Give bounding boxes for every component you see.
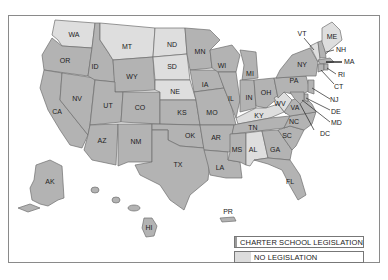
state-pr[interactable] xyxy=(220,217,236,222)
label-tn: TN xyxy=(248,124,257,131)
label-in: IN xyxy=(246,94,253,101)
label-nv: NV xyxy=(72,95,82,102)
label-ri: RI xyxy=(338,71,345,78)
label-ca: CA xyxy=(52,108,62,115)
label-ms: MS xyxy=(232,146,243,153)
label-wa: WA xyxy=(68,31,79,38)
state-ma[interactable] xyxy=(318,58,334,64)
label-fl: FL xyxy=(286,178,294,185)
label-dc: DC xyxy=(320,130,330,137)
label-pa: PA xyxy=(290,77,299,84)
label-wi: WI xyxy=(218,62,227,69)
label-wv: WV xyxy=(274,100,286,107)
state-fl[interactable] xyxy=(254,158,306,200)
label-ok: OK xyxy=(185,132,195,139)
label-sc: SC xyxy=(282,132,292,139)
leader-nj xyxy=(312,88,330,99)
state-hi-1 xyxy=(91,187,99,193)
leader-ri xyxy=(327,68,336,74)
label-mn: MN xyxy=(195,48,206,55)
legend-item-legislation: CHARTER SCHOOL LEGISLATION xyxy=(234,236,364,248)
state-nj[interactable] xyxy=(308,80,314,94)
label-sd: SD xyxy=(167,63,177,70)
legend-label-no-legislation: NO LEGISLATION xyxy=(251,253,317,262)
label-vt: VT xyxy=(298,30,308,37)
legend-swatch-no-legislation xyxy=(235,252,251,262)
label-ks: KS xyxy=(177,109,187,116)
label-id: ID xyxy=(92,63,99,70)
label-az: AZ xyxy=(98,137,108,144)
label-mi: MI xyxy=(246,70,254,77)
label-ar: AR xyxy=(211,134,221,141)
label-ga: GA xyxy=(270,146,280,153)
label-ky: KY xyxy=(254,112,264,119)
label-oh: OH xyxy=(261,89,272,96)
label-de: DE xyxy=(331,108,341,115)
label-ak: AK xyxy=(45,178,55,185)
label-nd: ND xyxy=(167,41,177,48)
label-nc: NC xyxy=(289,118,299,125)
label-ny: NY xyxy=(297,61,307,68)
label-nh: NH xyxy=(336,46,346,53)
state-ct[interactable] xyxy=(318,64,324,72)
label-nm: NM xyxy=(131,138,142,145)
label-la: LA xyxy=(216,164,225,171)
state-ri[interactable] xyxy=(324,64,328,70)
label-ia: IA xyxy=(202,81,209,88)
label-nj: NJ xyxy=(330,96,339,103)
label-ct: CT xyxy=(334,83,344,90)
label-co: CO xyxy=(135,104,146,111)
label-va: VA xyxy=(291,104,300,111)
leader-ct xyxy=(321,70,334,84)
state-nm[interactable] xyxy=(118,124,152,166)
label-al: AL xyxy=(249,146,258,153)
label-ut: UT xyxy=(103,102,113,109)
state-hi-3 xyxy=(128,205,140,211)
label-ne: NE xyxy=(170,88,180,95)
label-il: IL xyxy=(228,95,234,102)
label-hi: HI xyxy=(146,224,153,231)
state-ak-islands xyxy=(18,204,40,212)
label-tx: TX xyxy=(174,161,183,168)
label-mo: MO xyxy=(206,109,218,116)
label-mt: MT xyxy=(122,43,133,50)
map-legend: CHARTER SCHOOL LEGISLATION NO LEGISLATIO… xyxy=(234,236,364,266)
legend-item-no-legislation: NO LEGISLATION xyxy=(234,251,364,263)
label-wy: WY xyxy=(126,73,138,80)
label-me: ME xyxy=(327,33,338,40)
label-pr: PR xyxy=(223,208,233,215)
legend-label-legislation: CHARTER SCHOOL LEGISLATION xyxy=(237,238,363,247)
label-or: OR xyxy=(60,57,71,64)
label-md: MD xyxy=(331,119,342,126)
state-hi-2 xyxy=(112,197,120,203)
label-ma: MA xyxy=(344,58,355,65)
state-az[interactable] xyxy=(84,124,118,165)
